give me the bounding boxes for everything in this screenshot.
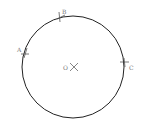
center-cross-mark [70,63,78,71]
point-c-label: C [129,64,134,71]
center-label: O [63,64,68,71]
circle-diagram: O B A C [0,0,141,131]
point-a-label: A [16,46,22,53]
point-c-tick [120,58,129,67]
point-b-label: B [62,8,67,15]
circle [22,16,124,118]
